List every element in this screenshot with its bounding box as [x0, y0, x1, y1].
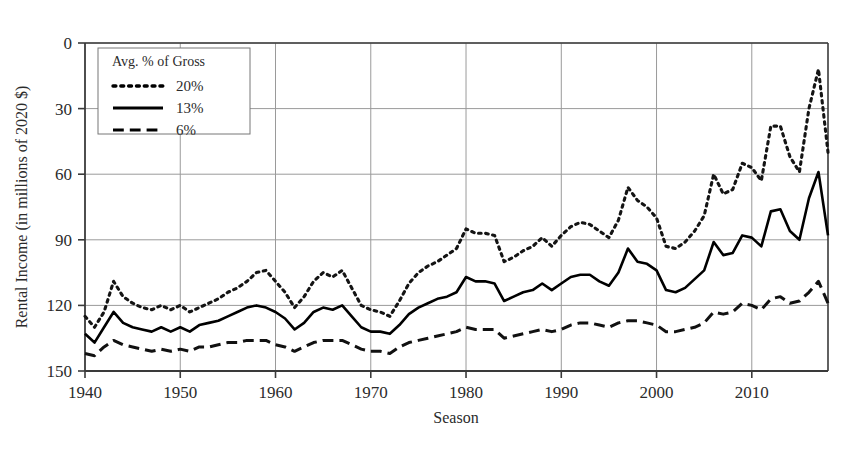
- x-tick-label: 1940: [68, 383, 102, 402]
- x-tick-label: 1980: [449, 383, 483, 402]
- y-tick-label: 60: [55, 165, 72, 184]
- y-axis-title: Rental Income (in millions of 2020 $): [13, 86, 31, 329]
- y-tick-label: 120: [47, 296, 73, 315]
- x-tick-label: 2000: [640, 383, 674, 402]
- x-tick-label: 1990: [544, 383, 578, 402]
- y-tick-label: 90: [55, 231, 72, 250]
- x-tick-label: 2010: [735, 383, 769, 402]
- legend-label-6pct: 6%: [176, 122, 196, 138]
- chart-canvas: 1501209060300 19401950196019701980199020…: [0, 0, 852, 454]
- x-tick-label: 1970: [354, 383, 388, 402]
- y-tick-label: 150: [47, 362, 73, 381]
- legend-label-20pct: 20%: [176, 78, 204, 94]
- x-tick-label: 1960: [259, 383, 293, 402]
- legend-label-13pct: 13%: [176, 100, 204, 116]
- legend-title: Avg. % of Gross: [112, 54, 205, 69]
- legend: Avg. % of Gross 20%13%6%: [98, 48, 250, 138]
- x-axis-title: Season: [433, 409, 478, 426]
- y-tick-label: 30: [55, 100, 72, 119]
- rental-income-line-chart: 1501209060300 19401950196019701980199020…: [0, 0, 852, 454]
- y-tick-label: 0: [64, 34, 73, 53]
- x-tick-label: 1950: [163, 383, 197, 402]
